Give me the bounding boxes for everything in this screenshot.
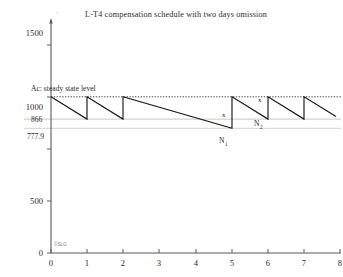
y-tick-label-0: 0 bbox=[39, 248, 43, 258]
y-tick-label-1500: 1500 bbox=[26, 28, 43, 38]
x-tick-label-4: 4 bbox=[194, 258, 199, 268]
n2-label-sub: 2 bbox=[260, 124, 263, 130]
chart-title: L-T4 compensation schedule with two days… bbox=[85, 10, 267, 19]
x-tick-label-8: 8 bbox=[338, 258, 342, 268]
x-tick-label-1: 1 bbox=[85, 258, 89, 268]
gap-mark-x-2: x bbox=[258, 96, 262, 104]
y-axis-unit-tick: ' bbox=[56, 12, 57, 17]
steady-state-label: Ac: steady state level bbox=[31, 84, 96, 93]
x-tick-label-3: 3 bbox=[157, 258, 161, 268]
x-tick-label-0: 0 bbox=[49, 258, 53, 268]
copyright-mark: ©SLG bbox=[54, 241, 67, 247]
chart-figure: L-T4 compensation schedule with two days… bbox=[0, 0, 343, 277]
gap-mark-x-1: x bbox=[222, 111, 226, 119]
y-tick-label-500: 500 bbox=[30, 196, 43, 206]
n1-label-sub: 1 bbox=[225, 141, 228, 147]
level-777-9-label: 777.9 bbox=[27, 132, 44, 141]
x-tick-label-5: 5 bbox=[230, 258, 234, 268]
y-tick-label-1000: 1000 bbox=[26, 102, 43, 112]
x-tick-label-6: 6 bbox=[266, 258, 271, 268]
x-tick-label-2: 2 bbox=[121, 258, 125, 268]
level-866-label: 866 bbox=[31, 115, 43, 124]
x-tick-label-7: 7 bbox=[302, 258, 307, 268]
